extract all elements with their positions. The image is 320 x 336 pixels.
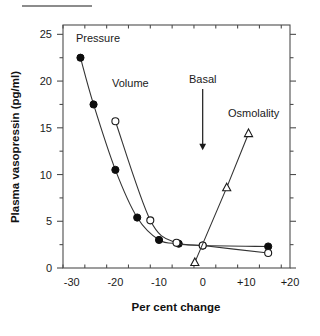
series-label-volume: Volume	[112, 77, 149, 89]
vasopressin-figure: -30-20-100+10+20 0510152025 PressureVolu…	[0, 0, 320, 336]
datapoint-pressure-3	[134, 214, 141, 221]
x-tick-label--10: -10	[151, 276, 167, 288]
y-tick-label-25: 25	[40, 28, 52, 40]
x-axis-ticks	[63, 25, 281, 268]
annotation-layer: Basal	[189, 73, 217, 150]
y-tick-label-10: 10	[40, 169, 52, 181]
series-volume: Volume	[112, 77, 272, 257]
annotation-label-basal: Basal	[189, 73, 217, 85]
x-axis-tick-labels: -30-20-100+10+20	[64, 276, 300, 288]
y-tick-label-0: 0	[46, 262, 52, 274]
datapoint-osmolality-1	[223, 183, 231, 191]
curve-pressure	[80, 58, 268, 247]
x-tick-label--30: -30	[64, 276, 80, 288]
y-tick-label-5: 5	[46, 215, 52, 227]
datapoint-volume-1	[147, 217, 154, 224]
datapoint-volume-2	[173, 239, 180, 246]
series-label-osmolality: Osmolality	[228, 107, 280, 119]
series-pressure: Pressure	[76, 32, 272, 250]
y-axis-ticks	[57, 34, 296, 268]
datapoint-volume-0	[112, 118, 119, 125]
curve-osmolality	[195, 133, 249, 262]
datapoint-osmolality-0	[191, 258, 199, 266]
chart-canvas: -30-20-100+10+20 0510152025 PressureVolu…	[0, 0, 320, 336]
annotation-basal: Basal	[189, 73, 217, 150]
data-series-layer: PressureVolumeOsmolality	[76, 32, 280, 266]
x-tick-label-+20: +20	[281, 276, 300, 288]
y-tick-label-20: 20	[40, 75, 52, 87]
datapoint-pressure-1	[90, 101, 97, 108]
datapoint-pressure-4	[155, 236, 162, 243]
datapoint-pressure-2	[112, 166, 119, 173]
series-osmolality: Osmolality	[191, 107, 280, 266]
datapoint-pressure-0	[77, 54, 84, 61]
caption-underline-rule	[22, 5, 92, 7]
y-axis-title: Plasma vasopressin (pg/ml)	[9, 71, 21, 223]
x-tick-label-0: 0	[200, 276, 206, 288]
plot-frame	[63, 25, 290, 268]
datapoint-osmolality-2	[244, 129, 252, 137]
y-axis-tick-labels: 0510152025	[40, 28, 52, 274]
x-tick-label-+10: +10	[237, 276, 256, 288]
x-axis-title: Per cent change	[132, 301, 221, 313]
annotation-arrow-head	[199, 144, 206, 151]
x-tick-label--20: -20	[107, 276, 123, 288]
y-tick-label-15: 15	[40, 122, 52, 134]
series-label-pressure: Pressure	[76, 32, 120, 44]
datapoint-volume-4	[265, 250, 272, 257]
